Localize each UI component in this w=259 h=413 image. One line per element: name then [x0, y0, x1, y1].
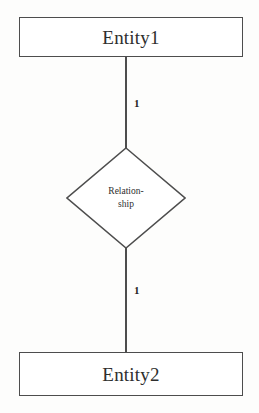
er-diagram-canvas: Entity1 1 Relation- ship 1 Entity2	[0, 0, 259, 413]
diamond-shape-icon	[66, 147, 186, 249]
cardinality-label-top: 1	[134, 98, 140, 109]
entity-box-entity2[interactable]: Entity2	[19, 352, 243, 396]
connector-line-relationship-entity2	[125, 248, 127, 353]
connector-line-entity1-relationship	[125, 57, 127, 148]
entity-label: Entity2	[102, 365, 159, 384]
relationship-diamond[interactable]: Relation- ship	[66, 147, 186, 249]
cardinality-label-bottom: 1	[134, 285, 140, 296]
entity-label: Entity1	[102, 28, 159, 47]
entity-box-entity1[interactable]: Entity1	[19, 17, 243, 57]
